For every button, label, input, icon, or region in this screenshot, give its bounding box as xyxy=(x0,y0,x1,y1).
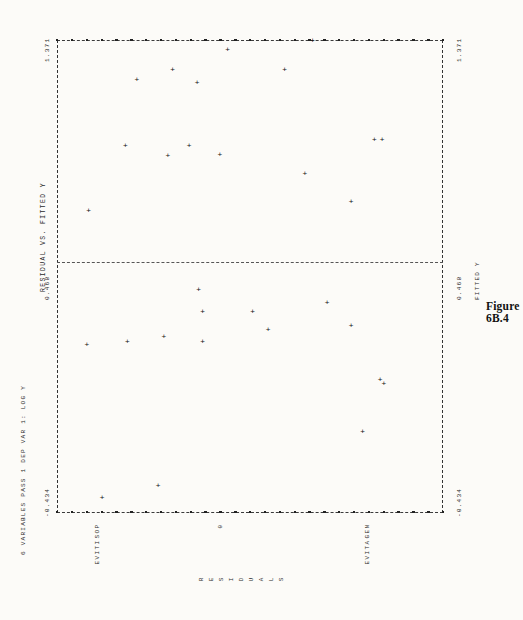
data-point xyxy=(167,158,170,161)
axis-tick xyxy=(101,511,103,513)
scatter-plot-area xyxy=(57,40,443,513)
axis-tick xyxy=(279,39,281,41)
axis-tick xyxy=(442,39,444,41)
data-point xyxy=(202,314,205,317)
axis-tick xyxy=(353,511,355,513)
axis-tick xyxy=(115,39,117,41)
axis-tick xyxy=(294,39,296,41)
data-point xyxy=(198,292,201,295)
axis-tick xyxy=(412,511,414,513)
axis-tick xyxy=(383,39,385,41)
axis-tick xyxy=(160,39,162,41)
axis-tick xyxy=(338,39,340,41)
data-point xyxy=(127,344,130,347)
axis-tick xyxy=(368,511,370,513)
data-point xyxy=(252,314,255,317)
axis-tick xyxy=(130,511,132,513)
data-point xyxy=(374,142,377,145)
data-point xyxy=(227,52,230,55)
axis-tick xyxy=(397,39,399,41)
category-label-positive: POSITIVE xyxy=(96,524,100,566)
y-axis-tick-max-left: 1.371 xyxy=(44,38,51,62)
data-point xyxy=(351,328,354,331)
y-axis-title: RESIDUALS xyxy=(196,576,286,583)
axis-tick xyxy=(294,511,296,513)
data-point xyxy=(284,72,287,75)
y-axis-tick-mid-left: 0.468 xyxy=(44,276,51,300)
axis-tick xyxy=(234,39,236,41)
data-point xyxy=(202,344,205,347)
data-point xyxy=(88,213,91,216)
figure-caption: Figure 6B.4 xyxy=(486,300,523,324)
axis-tick xyxy=(383,511,385,513)
data-point xyxy=(384,386,387,389)
axis-tick xyxy=(56,511,58,513)
y-axis-tick-max-right: 1.371 xyxy=(456,38,463,62)
data-point xyxy=(158,488,161,491)
data-point xyxy=(327,305,330,308)
axis-tick xyxy=(101,39,103,41)
category-label-zero: 0 xyxy=(219,524,223,529)
plot-right-edge xyxy=(442,40,443,513)
y-axis-tick-min-left: -0.434 xyxy=(44,488,51,517)
axis-tick xyxy=(86,39,88,41)
axis-tick xyxy=(323,511,325,513)
data-point xyxy=(125,148,128,151)
axis-tick xyxy=(279,511,281,513)
axis-tick xyxy=(249,511,251,513)
axis-tick xyxy=(175,39,177,41)
axis-tick xyxy=(190,39,192,41)
axis-tick xyxy=(219,39,221,41)
data-point xyxy=(172,72,175,75)
axis-tick xyxy=(427,511,429,513)
axis-tick xyxy=(86,511,88,513)
data-point xyxy=(351,204,354,207)
plot-header-line: 6 VARIABLES PASS 1 DEP VAR 1: LOG Y xyxy=(20,385,27,555)
data-point xyxy=(189,148,192,151)
data-point xyxy=(137,82,140,85)
axis-tick xyxy=(338,511,340,513)
axis-tick xyxy=(264,511,266,513)
axis-tick xyxy=(442,511,444,513)
axis-tick xyxy=(145,39,147,41)
data-point xyxy=(220,157,223,160)
category-label-negative: NEGATIVE xyxy=(366,524,370,566)
axis-tick xyxy=(219,511,221,513)
data-point xyxy=(102,500,105,503)
axis-tick xyxy=(130,39,132,41)
axis-tick xyxy=(397,511,399,513)
axis-tick xyxy=(353,39,355,41)
axis-tick xyxy=(190,511,192,513)
axis-tick xyxy=(160,511,162,513)
axis-tick xyxy=(249,39,251,41)
axis-tick xyxy=(71,511,73,513)
axis-tick xyxy=(323,39,325,41)
y-axis-tick-min-right: -0.434 xyxy=(456,488,463,517)
data-point xyxy=(197,85,200,88)
y-axis-tick-mid-right: 0.468 xyxy=(456,276,463,300)
data-point xyxy=(268,332,271,335)
plot-left-edge xyxy=(57,40,58,513)
data-point xyxy=(382,142,385,145)
axis-tick xyxy=(56,39,58,41)
axis-tick xyxy=(71,39,73,41)
zero-reference-line xyxy=(57,262,443,263)
data-point xyxy=(312,43,315,46)
axis-tick xyxy=(412,39,414,41)
data-point xyxy=(362,434,365,437)
axis-tick xyxy=(115,511,117,513)
axis-tick xyxy=(264,39,266,41)
data-point xyxy=(304,176,307,179)
axis-tick xyxy=(145,511,147,513)
x-axis-label: FITTED Y xyxy=(474,261,481,300)
axis-tick xyxy=(204,511,206,513)
axis-tick xyxy=(234,511,236,513)
axis-tick xyxy=(175,511,177,513)
data-point xyxy=(86,347,89,350)
axis-tick xyxy=(427,39,429,41)
axis-tick xyxy=(308,511,310,513)
axis-tick xyxy=(204,39,206,41)
data-point xyxy=(164,339,167,342)
axis-tick xyxy=(368,39,370,41)
